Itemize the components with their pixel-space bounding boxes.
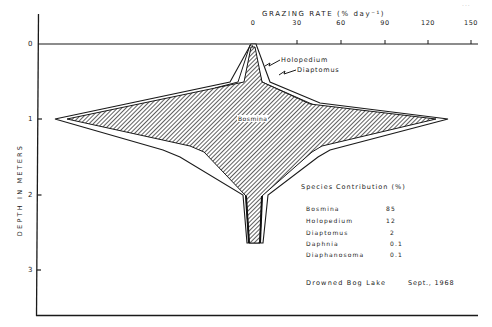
y-axis xyxy=(37,14,39,316)
species-row: Diaptomus 2 xyxy=(306,229,456,239)
chart-title: GRAZING RATE (% day⁻¹) xyxy=(262,10,385,18)
species-row: Holopedium 12 xyxy=(306,217,456,227)
chart-canvas xyxy=(0,0,492,327)
holopedium-leader xyxy=(265,60,280,66)
x-tick-90: 90 xyxy=(380,19,389,27)
x-tick-60: 60 xyxy=(336,19,345,27)
y-tick-1: 1 xyxy=(28,115,32,123)
species-row: Diaphanosoma 0.1 xyxy=(306,251,456,261)
page-number: ... xyxy=(462,0,471,7)
species-name: Holopedium xyxy=(306,217,353,224)
species-row: Bosmina 85 xyxy=(306,205,456,215)
lake-name: Drowned Bog Lake xyxy=(306,279,386,287)
species-name: Daphnia xyxy=(306,240,339,247)
x-tick-0: 0 xyxy=(251,19,256,27)
species-row: Daphnia 0.1 xyxy=(306,240,456,250)
x-tick-120: 120 xyxy=(421,19,435,27)
x-tick-30: 30 xyxy=(292,19,301,27)
species-percent: 0.1 xyxy=(390,251,403,258)
diaptomus-annotation: Diaptomus xyxy=(297,66,339,74)
species-percent: 0.1 xyxy=(390,240,403,247)
holopedium-annotation: Holopedium xyxy=(281,56,328,64)
y-tick-0: 0 xyxy=(28,40,32,48)
species-contribution-title: Species Contribution (%) xyxy=(301,183,406,191)
species-percent: 2 xyxy=(390,229,395,236)
species-name: Diaphanosoma xyxy=(306,251,364,258)
bosmina-annotation: Bosmina xyxy=(237,115,268,122)
y-tick-2: 2 xyxy=(28,191,32,199)
sample-date: Sept., 1968 xyxy=(408,279,454,287)
species-name: Diaptomus xyxy=(306,229,348,236)
species-percent: 12 xyxy=(386,217,396,224)
species-name: Bosmina xyxy=(306,205,340,212)
diaptomus-leader xyxy=(279,70,296,75)
y-axis-label: DEPTH IN METERS xyxy=(16,144,24,236)
x-tick-150: 150 xyxy=(464,19,478,27)
species-percent: 85 xyxy=(386,205,396,212)
y-tick-3: 3 xyxy=(28,266,32,274)
